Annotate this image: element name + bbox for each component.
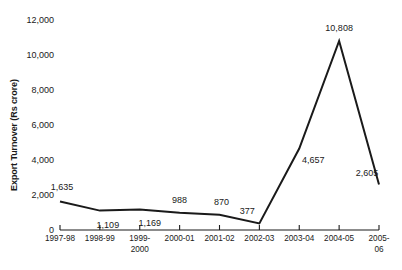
- data-point-label: 377: [240, 206, 255, 216]
- x-axis-tick-label: 2005- 06: [369, 234, 390, 255]
- x-axis-tick-label: 2000-01: [165, 234, 195, 245]
- data-point-label: 4,657: [302, 155, 325, 165]
- data-point-label: 10,808: [325, 23, 353, 33]
- x-axis-tick-label: 2003-04: [284, 234, 314, 245]
- data-point-label: 1,109: [97, 220, 120, 230]
- data-point-label: 1,169: [138, 218, 161, 228]
- x-axis-tick-label: 2002-03: [244, 234, 274, 245]
- x-axis-tick-label: 2004-05: [324, 234, 354, 245]
- x-axis-tick-label: 2001-02: [204, 234, 234, 245]
- data-point-label: 988: [172, 195, 187, 205]
- plot-area: [0, 0, 402, 270]
- x-axis-tick-label: 1998-99: [85, 234, 115, 245]
- x-axis-tick-label: 1997-98: [45, 234, 75, 245]
- line-chart: Export Turnover (Rs crore) 02,0004,0006,…: [0, 0, 402, 270]
- x-axis-tick-label: 1999- 2000: [129, 234, 150, 255]
- data-point-label: 1,635: [51, 182, 74, 192]
- data-point-label: 870: [214, 197, 229, 207]
- data-point-label: 2,605: [356, 168, 379, 178]
